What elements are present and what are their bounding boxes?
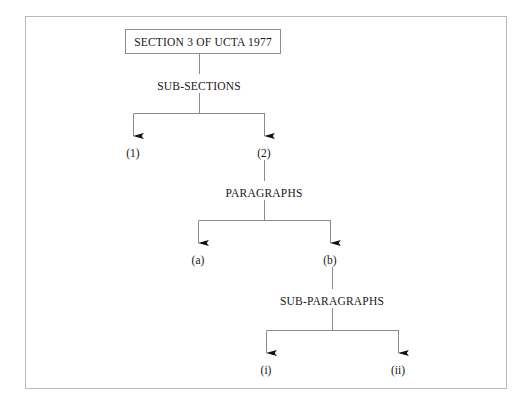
level-heading-paragraphs: PARAGRAPHS [226, 188, 303, 200]
tree-connectors [0, 0, 532, 411]
level-heading-sub-paragraphs: SUB-PARAGRAPHS [280, 296, 384, 308]
node-subsection-2: (2) [257, 148, 270, 160]
root-node-label: SECTION 3 OF UCTA 1977 [134, 36, 272, 48]
node-subparagraph-ii: (ii) [391, 365, 405, 377]
node-subparagraph-i: (i) [261, 365, 272, 377]
level-heading-sub-sections: SUB-SECTIONS [157, 81, 241, 93]
node-paragraph-a: (a) [192, 255, 205, 267]
root-node-box: SECTION 3 OF UCTA 1977 [125, 29, 281, 54]
node-paragraph-b: (b) [323, 255, 336, 267]
node-subsection-1: (1) [126, 148, 139, 160]
